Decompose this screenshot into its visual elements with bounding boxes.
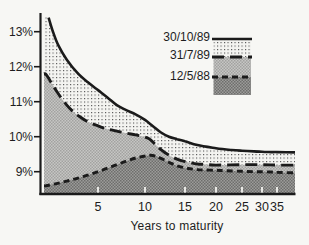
y-tick-label-11: 11% (0, 95, 33, 109)
x-tick-label-5: 5 (82, 200, 114, 214)
y-tick-label-9: 9% (0, 165, 33, 179)
legend-swatch-fill-30-10-89 (214, 39, 252, 57)
y-tick-label-12: 12% (0, 60, 33, 74)
legend-label-31-7-89: 31/7/89 (110, 48, 210, 62)
legend-label-30-10-89: 30/10/89 (110, 30, 210, 44)
y-tick-label-13: 13% (0, 25, 33, 39)
x-tick-label-10: 10 (129, 200, 161, 214)
legend-swatch-fill-12-5-88 (214, 77, 252, 95)
y-tick-label-10: 10% (0, 130, 33, 144)
x-tick-label-15: 15 (169, 200, 201, 214)
legend-label-12-5-88: 12/5/88 (110, 69, 210, 83)
x-tick-label-35: 35 (261, 200, 293, 214)
yield-curve-figure: 13% 12% 11% 10% 9% 5 10 15 20 25 30 35 Y… (0, 0, 309, 245)
legend-swatch-fill-31-7-89 (214, 57, 252, 77)
legend-swatch (212, 39, 252, 95)
x-axis-title: Years to maturity (97, 219, 257, 233)
